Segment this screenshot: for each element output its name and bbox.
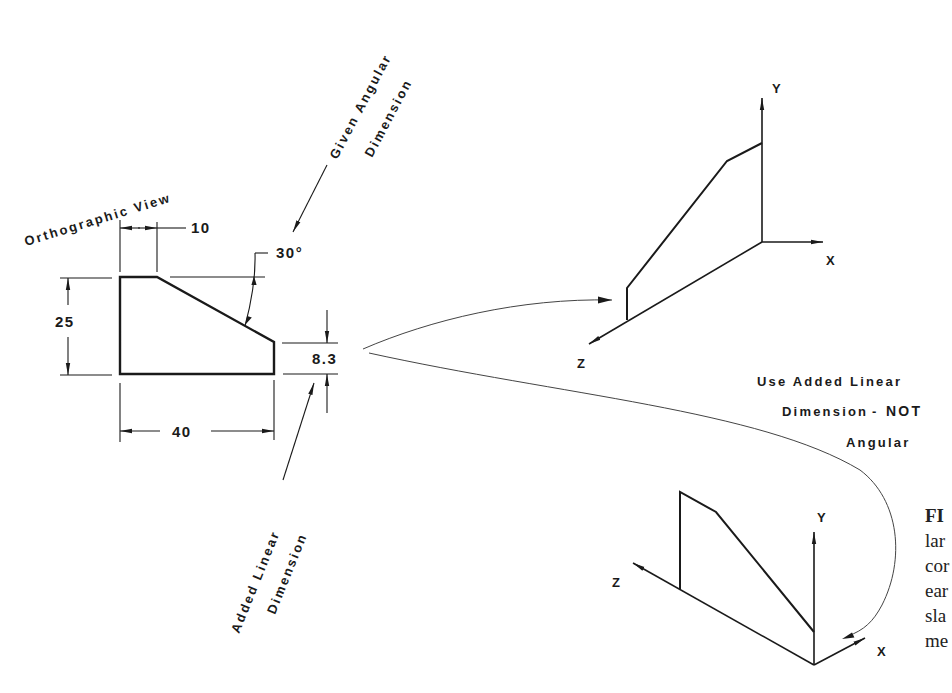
orthographic-profile bbox=[120, 277, 274, 374]
figure-caption: FI lar cor ear sla me bbox=[925, 505, 950, 651]
axis-label-z: Z bbox=[577, 356, 585, 371]
caption-line3: cor bbox=[925, 555, 950, 576]
note-dash: - bbox=[872, 404, 879, 419]
isometric-view-top: Y X Z bbox=[577, 81, 835, 371]
note-line3: Angular bbox=[846, 435, 911, 450]
connector-arrow bbox=[842, 633, 854, 640]
technical-drawing-figure: Orthographic View 10 30° 25 bbox=[0, 0, 952, 693]
axis-label-y: Y bbox=[772, 81, 781, 96]
caption-line1: FI bbox=[925, 505, 944, 526]
drawing-svg: Orthographic View 10 30° 25 bbox=[0, 0, 952, 693]
connector-arrow bbox=[598, 297, 612, 304]
caption-line4: ear bbox=[925, 580, 949, 601]
angle-arc bbox=[245, 253, 255, 326]
connector-curve-top bbox=[363, 300, 612, 349]
dimension-angle: 30° bbox=[170, 244, 303, 326]
dimension-text-25: 25 bbox=[55, 313, 75, 330]
dimension-text-8-3: 8.3 bbox=[312, 350, 337, 367]
z-axis bbox=[633, 563, 814, 665]
dimension-text-40: 40 bbox=[172, 423, 192, 440]
isometric-view-bottom: Y X Z bbox=[612, 492, 886, 665]
dimension-40: 40 bbox=[120, 380, 274, 442]
dimension-10: 10 bbox=[120, 219, 211, 272]
dimension-8-3: 8.3 bbox=[282, 310, 338, 413]
callout-added-linear: Added Linear Dimension bbox=[228, 383, 314, 635]
axis-label-z: Z bbox=[612, 575, 620, 590]
isometric-profile-bottom bbox=[680, 492, 814, 632]
connector-curve-bottom bbox=[369, 353, 896, 636]
x-axis bbox=[814, 638, 865, 665]
note-line2a: Dimension bbox=[782, 404, 868, 419]
dimension-text-30: 30° bbox=[276, 244, 303, 261]
isometric-profile-top bbox=[627, 143, 762, 320]
z-axis bbox=[589, 242, 762, 344]
callout-leader bbox=[283, 383, 314, 480]
axis-label-x: X bbox=[877, 644, 886, 659]
callout-given-angular: Given Angular Dimension bbox=[293, 51, 415, 232]
given-angular-label-line1: Given Angular bbox=[326, 51, 394, 161]
caption-line2: lar bbox=[925, 530, 946, 551]
axis-label-y: Y bbox=[817, 510, 826, 525]
caption-line6: me bbox=[925, 630, 948, 651]
caption-line5: sla bbox=[925, 605, 947, 626]
note-use-added-linear: Use Added Linear Dimension - NOT Angular bbox=[757, 374, 922, 450]
note-line1: Use Added Linear bbox=[757, 374, 902, 389]
orthographic-view: Orthographic View 10 30° 25 bbox=[22, 190, 338, 442]
callout-leader bbox=[293, 165, 327, 232]
axis-label-x: X bbox=[826, 253, 835, 268]
orthographic-view-title: Orthographic View bbox=[22, 190, 172, 249]
dimension-text-10: 10 bbox=[191, 219, 211, 236]
dimension-25: 25 bbox=[55, 278, 112, 375]
note-line2b: NOT bbox=[886, 403, 922, 419]
